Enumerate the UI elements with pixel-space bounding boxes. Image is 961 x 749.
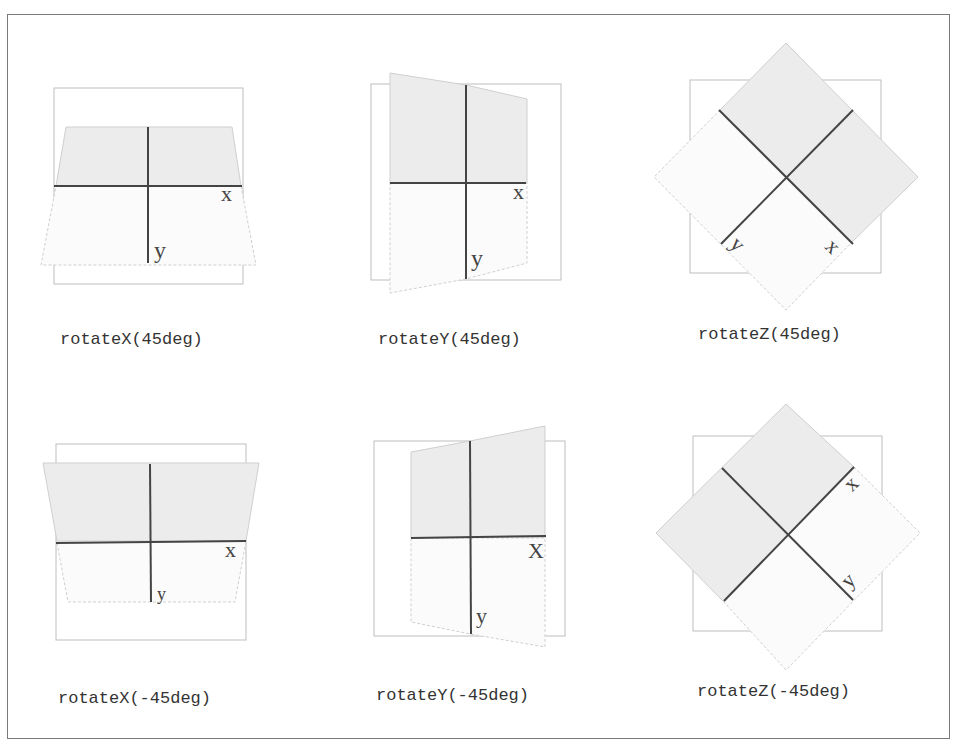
- rotatez-neg45-diagram: [0, 0, 961, 749]
- caption: rotateZ(-45deg): [697, 682, 850, 701]
